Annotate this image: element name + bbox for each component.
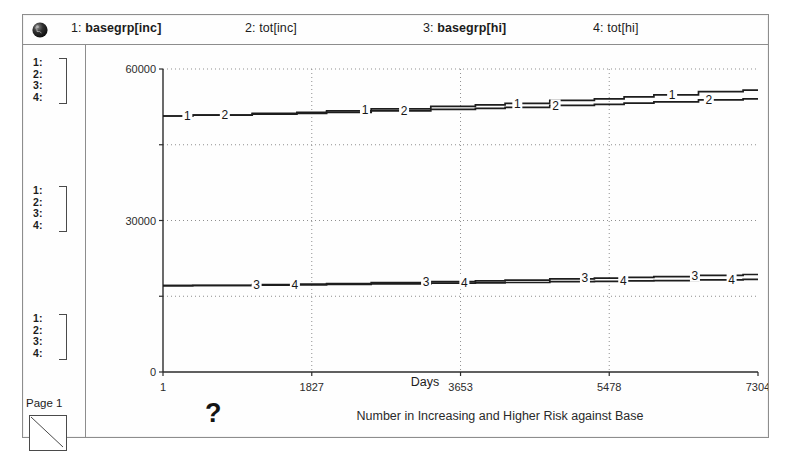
series-marker-1: 1 bbox=[669, 88, 676, 102]
scale-group-2[interactable]: 1: 2: 3: 4: bbox=[33, 185, 67, 231]
plot-region: 0300006000011827365354787304121212123434… bbox=[85, 45, 768, 437]
help-question-icon[interactable]: ? bbox=[205, 400, 222, 427]
x-tick-label: 1 bbox=[160, 381, 166, 393]
series-marker-3: 3 bbox=[692, 269, 699, 283]
series-marker-4: 4 bbox=[292, 278, 299, 292]
graph-window: 1: basegrp[inc] 2: tot[inc] 3: basegrp[h… bbox=[22, 14, 769, 438]
y-tick-label: 0 bbox=[150, 366, 156, 378]
scale-group-1-bracket bbox=[59, 58, 67, 104]
y-tick-label: 60000 bbox=[125, 63, 156, 75]
page-triangle-icon[interactable] bbox=[29, 415, 67, 451]
legend-item-2-number: 2: bbox=[245, 21, 256, 35]
scale-group-2-bracket bbox=[59, 186, 67, 232]
series-marker-1: 1 bbox=[184, 109, 191, 123]
legend-item-4-label: tot[hi] bbox=[607, 21, 638, 35]
series-marker-4: 4 bbox=[728, 273, 735, 287]
x-tick-label: 1827 bbox=[300, 381, 324, 393]
x-axis-title: Days bbox=[365, 375, 485, 389]
legend-item-4-number: 4: bbox=[593, 21, 604, 35]
y-tick-label: 30000 bbox=[125, 215, 156, 227]
series-marker-3: 3 bbox=[582, 271, 589, 285]
x-tick-label: 5478 bbox=[597, 381, 621, 393]
legend-item-1[interactable]: 1: basegrp[inc] bbox=[71, 21, 161, 35]
legend-item-4[interactable]: 4: tot[hi] bbox=[593, 21, 638, 35]
globe-icon[interactable] bbox=[31, 21, 49, 39]
series-marker-2: 2 bbox=[221, 108, 228, 122]
series-marker-3: 3 bbox=[423, 275, 430, 289]
series-marker-2: 2 bbox=[705, 93, 712, 107]
legend-item-1-label: basegrp[inc] bbox=[85, 21, 161, 35]
scale-group-3-bracket bbox=[59, 314, 67, 360]
scale-group-3[interactable]: 1: 2: 3: 4: bbox=[33, 313, 67, 359]
legend-item-3-number: 3: bbox=[423, 21, 434, 35]
series-marker-1: 1 bbox=[514, 97, 521, 111]
page-label: Page 1 bbox=[26, 397, 62, 409]
scale-gutter: 1: 2: 3: 4: 1: 2: 3: 4: 1: 2: 3: 4: bbox=[23, 45, 86, 437]
scale-group-1[interactable]: 1: 2: 3: 4: bbox=[33, 57, 67, 103]
legend-bar: 1: basegrp[inc] 2: tot[inc] 3: basegrp[h… bbox=[23, 15, 768, 45]
series-marker-2: 2 bbox=[552, 99, 559, 113]
series-marker-4: 4 bbox=[461, 276, 468, 290]
legend-item-3-label: basegrp[hi] bbox=[437, 21, 506, 35]
series-marker-1: 1 bbox=[362, 103, 369, 117]
series-marker-2: 2 bbox=[401, 104, 408, 118]
x-tick-label: 7304 bbox=[746, 381, 768, 393]
chart-caption: Number in Increasing and Higher Risk aga… bbox=[285, 409, 715, 423]
legend-item-2-label: tot[inc] bbox=[259, 21, 297, 35]
series-marker-4: 4 bbox=[620, 274, 627, 288]
series-marker-3: 3 bbox=[253, 278, 260, 292]
legend-item-3[interactable]: 3: basegrp[hi] bbox=[423, 21, 506, 35]
legend-item-1-number: 1: bbox=[71, 21, 82, 35]
legend-item-2[interactable]: 2: tot[inc] bbox=[245, 21, 297, 35]
